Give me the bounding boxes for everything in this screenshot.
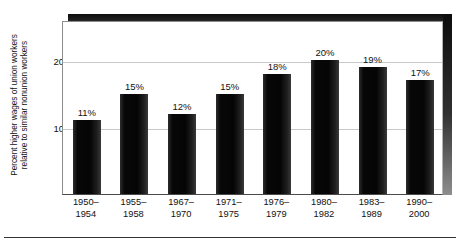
y-tick-label-20: 20 [42,56,64,67]
x-axis-tick-labels: 1950–19541955–19581967–19701971–19751976… [62,197,443,233]
y-axis-title: Percent higher wages of union workers re… [2,14,36,196]
x-tick-label: 1990–2000 [406,197,432,220]
y-axis-title-line-1: Percent higher wages of union workers [9,34,19,176]
bar-value-label: 19% [363,54,382,65]
x-tick-label: 1976–1979 [263,197,289,220]
bar-value-label: 17% [411,67,430,78]
x-tick-label-line-2: 1958 [121,209,147,221]
bar-value-label: 12% [173,101,192,112]
bar-slot: 15% [111,22,159,194]
x-tick-label-line-2: 1982 [311,209,337,221]
bar-slot: 17% [396,22,444,194]
x-tick-label-line-1: 1950– [73,197,99,209]
bar[interactable] [168,114,196,194]
bar-value-label: 15% [125,81,144,92]
x-tick-label-line-1: 1971– [216,197,242,209]
x-tick-label-line-1: 1955– [121,197,147,209]
x-tick-label-line-1: 1976– [263,197,289,209]
x-tick-label-line-2: 2000 [406,209,432,221]
x-tick-label-line-1: 1990– [406,197,432,209]
bar[interactable] [359,67,387,194]
bar-slot: 19% [349,22,397,194]
y-axis-tick-labels: 1020 [40,0,64,245]
bar[interactable] [263,74,291,194]
bar-value-label: 11% [78,107,96,118]
x-tick-label-line-1: 1967– [168,197,194,209]
bar[interactable] [73,120,101,194]
bars-container: 11%15%12%15%18%20%19%17% [63,22,442,194]
bar-slot: 15% [206,22,254,194]
bottom-divider [4,237,456,238]
x-tick-label: 1971–1975 [216,197,242,220]
bar[interactable] [120,94,148,194]
bar-slot: 18% [254,22,302,194]
x-tick-label-line-1: 1980– [311,197,337,209]
x-tick-label-line-2: 1970 [168,209,194,221]
bar[interactable] [406,80,434,194]
bar[interactable] [311,60,339,194]
plot-area: 11%15%12%15%18%20%19%17% [62,21,443,195]
chart-shadow-right [443,14,452,195]
x-tick-label: 1950–1954 [73,197,99,220]
x-tick-label-line-2: 1975 [216,209,242,221]
bar[interactable] [216,94,244,194]
x-tick-label: 1980–1982 [311,197,337,220]
x-tick-label-line-2: 1979 [263,209,289,221]
bar-slot: 20% [301,22,349,194]
y-axis-title-line-2: relative to similar nonunion workers [19,34,29,176]
x-tick-label: 1967–1970 [168,197,194,220]
x-tick-label-line-2: 1954 [73,209,99,221]
x-tick-label-line-1: 1983– [359,197,385,209]
y-tick-label-10: 10 [42,123,64,134]
x-tick-label-line-2: 1989 [359,209,385,221]
bar-value-label: 18% [268,61,287,72]
bar-slot: 11% [63,22,111,194]
bar-chart-figure: Percent higher wages of union workers re… [0,0,460,245]
bar-value-label: 15% [220,81,239,92]
x-tick-label: 1983–1989 [359,197,385,220]
bar-slot: 12% [158,22,206,194]
x-tick-label: 1955–1958 [121,197,147,220]
bar-value-label: 20% [315,47,334,58]
